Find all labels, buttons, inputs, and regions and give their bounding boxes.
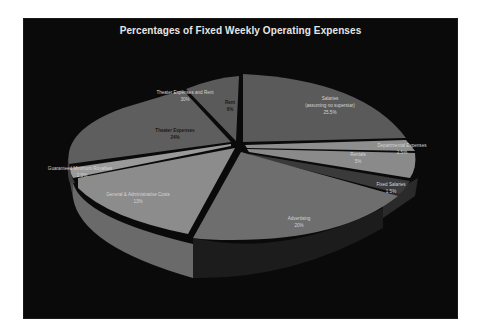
pie-chart: Salaries (assuming no superstar) 25.5% D… bbox=[23, 18, 458, 319]
value-salaries: 25.5% bbox=[323, 110, 336, 115]
value-rent: 6% bbox=[227, 107, 234, 112]
label-rent: Rent bbox=[225, 100, 236, 105]
label-salaries-sub: (assuming no superstar) bbox=[305, 103, 355, 108]
value-theater-expenses: 24% bbox=[170, 135, 179, 140]
label-theater-and-rent-group: Theater Expenses and Rent bbox=[156, 90, 214, 95]
chart-area: Percentages of Fixed Weekly Operating Ex… bbox=[23, 18, 458, 319]
label-salaries: Salaries bbox=[322, 96, 339, 101]
value-theater-and-rent-group: 30% bbox=[180, 97, 189, 102]
label-theater-expenses: Theater Expenses bbox=[155, 128, 195, 133]
label-royalties: Guaranteed Minimum Royalties bbox=[48, 166, 113, 171]
value-fixed-salaries: 1.5% bbox=[386, 189, 396, 194]
pie-top-faces bbox=[68, 74, 415, 240]
label-general-admin: General & Administrative Costs bbox=[106, 192, 170, 197]
value-advertising: 20% bbox=[294, 223, 303, 228]
side-wall-royalties bbox=[70, 183, 73, 198]
value-general-admin: 13% bbox=[133, 199, 142, 204]
label-rentals: Rentals bbox=[350, 152, 366, 157]
label-departmental: Departmental Expenses bbox=[377, 143, 427, 148]
value-rentals: 5% bbox=[355, 159, 362, 164]
slice-salaries bbox=[243, 74, 406, 142]
label-fixed-salaries: Fixed Salaries bbox=[376, 182, 406, 187]
value-departmental: 2.5% bbox=[397, 150, 407, 155]
label-advertising: Advertising bbox=[288, 216, 311, 221]
value-royalties: 2.5% bbox=[77, 173, 87, 178]
